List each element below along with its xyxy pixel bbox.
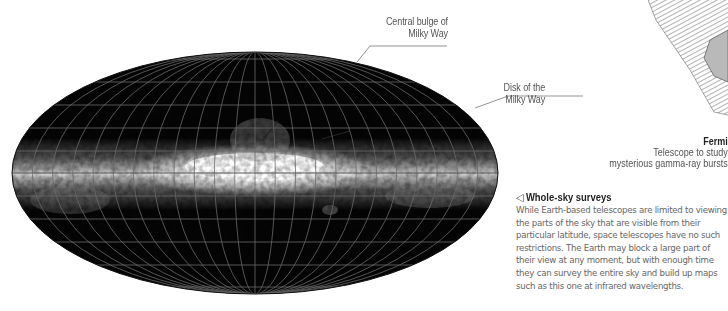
callout-galactic-disk: Disk of the Milky Way <box>503 82 545 106</box>
callout-bulge-line2: Milky Way <box>386 28 448 40</box>
callout-central-bulge: Central bulge of Milky Way <box>386 16 448 40</box>
fermi-title: Fermi <box>609 136 728 147</box>
fermi-telescope-illustration <box>648 0 728 120</box>
callout-disk-line1: Disk of the <box>503 82 545 94</box>
left-triangle-icon: ◁ <box>516 191 523 203</box>
fermi-caption: Fermi Telescope to study mysterious gamm… <box>609 136 728 169</box>
survey-body-text: While Earth-based telescopes are limited… <box>516 204 728 292</box>
callout-disk-line2: Milky Way <box>503 94 545 106</box>
whole-sky-surveys-caption: ◁Whole-sky surveys While Earth-based tel… <box>516 191 728 292</box>
survey-heading: ◁Whole-sky surveys <box>516 191 707 203</box>
callout-bulge-line1: Central bulge of <box>386 16 448 28</box>
all-sky-map <box>0 0 510 311</box>
fermi-desc-line1: Telescope to study <box>609 147 728 158</box>
fermi-desc-line2: mysterious gamma-ray bursts <box>609 158 728 169</box>
survey-title: Whole-sky surveys <box>526 191 612 203</box>
